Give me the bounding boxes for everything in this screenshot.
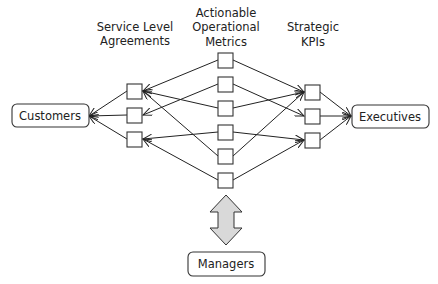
double-arrow-icon: [210, 195, 242, 245]
header-kpis-line1: Strategic: [287, 20, 339, 34]
edge-kpi3-executives: [320, 116, 351, 140]
header-kpis-line2: KPIs: [301, 35, 325, 49]
managers-node[interactable]: Managers: [188, 252, 265, 276]
sla-node-2[interactable]: [127, 108, 142, 123]
edge-sla3-customers: [89, 116, 127, 139]
kpi-node-2[interactable]: [305, 109, 320, 124]
edge-m6-sla3: [143, 139, 218, 180]
header-sla: Service Level Agreements: [97, 20, 174, 48]
diagram-canvas: Service Level Agreements Actionable Oper…: [0, 0, 438, 284]
edges-metrics-to-sla: [143, 60, 218, 180]
header-sla-line2: Agreements: [100, 34, 170, 48]
edge-sla1-customers: [89, 91, 127, 116]
metric-node-3[interactable]: [218, 101, 233, 116]
diagram-svg: Service Level Agreements Actionable Oper…: [0, 0, 438, 284]
customers-label: Customers: [19, 109, 81, 123]
edges-sla-to-customers: [89, 91, 127, 139]
edge-m3-sla1: [143, 91, 218, 108]
edge-m1-sla1: [143, 60, 218, 91]
edge-m3-kpi1: [233, 92, 304, 108]
metric-node-4[interactable]: [218, 125, 233, 140]
metrics-column: [218, 53, 233, 188]
header-metrics: Actionable Operational Metrics: [192, 6, 259, 49]
kpi-node-3[interactable]: [305, 133, 320, 148]
edge-m4-sla3: [143, 132, 218, 139]
header-metrics-line1: Actionable: [196, 6, 257, 20]
metric-node-1[interactable]: [218, 53, 233, 68]
edge-m5-sla1: [143, 91, 218, 156]
edge-kpi1-executives: [320, 92, 351, 116]
sla-node-3[interactable]: [127, 132, 142, 147]
edges-metrics-to-kpis: [233, 60, 304, 180]
header-sla-line1: Service Level: [97, 20, 174, 34]
header-kpis: Strategic KPIs: [287, 20, 339, 49]
header-metrics-line2: Operational: [192, 20, 259, 34]
metric-node-6[interactable]: [218, 173, 233, 188]
executives-label: Executives: [359, 110, 421, 124]
sla-node-1[interactable]: [127, 84, 142, 99]
sla-column: [127, 84, 142, 147]
edge-sla2-customers: [89, 115, 127, 116]
metric-node-2[interactable]: [218, 77, 233, 92]
managers-label: Managers: [198, 257, 254, 271]
kpi-node-1[interactable]: [305, 85, 320, 100]
edges-kpis-to-executives: [320, 92, 351, 140]
header-metrics-line3: Metrics: [205, 35, 247, 49]
executives-node[interactable]: Executives: [352, 105, 429, 128]
customers-node[interactable]: Customers: [12, 104, 89, 127]
metric-node-5[interactable]: [218, 149, 233, 164]
edge-m4-kpi3: [233, 132, 304, 140]
kpi-column: [305, 85, 320, 148]
edge-m1-kpi1: [233, 60, 304, 92]
